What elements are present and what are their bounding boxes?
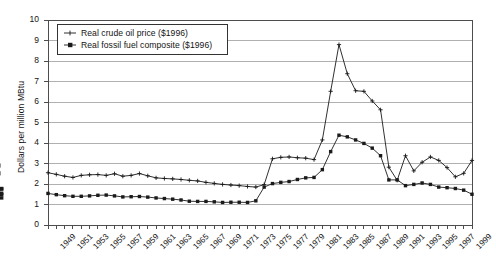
x-axis-ticks bbox=[48, 225, 472, 229]
legend-label-fossil-composite: Real fossil fuel composite ($1996) bbox=[81, 40, 212, 50]
legend-label-crude-oil: Real crude oil price ($1996) bbox=[81, 28, 188, 38]
line-chart: Dollars per million MBtu 012345678910 19… bbox=[0, 0, 496, 268]
data-series-layer bbox=[0, 43, 474, 205]
plot-area bbox=[0, 0, 496, 268]
